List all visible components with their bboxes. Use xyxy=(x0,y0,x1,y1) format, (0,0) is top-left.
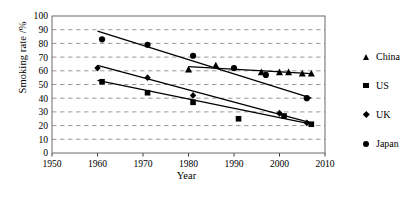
svg-text:50: 50 xyxy=(38,79,48,90)
svg-text:70: 70 xyxy=(38,52,48,63)
data-point xyxy=(99,79,105,85)
svg-text:60: 60 xyxy=(38,65,48,76)
data-point xyxy=(281,113,287,119)
svg-text:30: 30 xyxy=(38,106,48,117)
legend-label: Japan xyxy=(376,138,399,149)
diamond-icon xyxy=(360,112,372,117)
legend: China US UK Japan xyxy=(360,42,418,158)
data-point xyxy=(190,53,196,59)
legend-label: China xyxy=(376,51,400,62)
data-point xyxy=(212,62,219,69)
legend-item-japan: Japan xyxy=(360,129,418,158)
svg-text:100: 100 xyxy=(34,10,49,21)
svg-text:1970: 1970 xyxy=(133,158,152,169)
legend-label: UK xyxy=(376,109,390,120)
data-point xyxy=(190,100,196,106)
data-point xyxy=(144,42,150,48)
svg-text:80: 80 xyxy=(38,38,48,49)
data-point xyxy=(145,90,151,96)
legend-label: US xyxy=(376,80,389,91)
svg-text:2010: 2010 xyxy=(315,158,334,169)
x-tick-labels: 1950196019701980199020002010 xyxy=(42,158,334,169)
data-point xyxy=(236,116,242,122)
svg-text:1980: 1980 xyxy=(179,158,198,169)
data-point xyxy=(99,36,105,42)
svg-text:90: 90 xyxy=(38,24,48,35)
svg-text:2000: 2000 xyxy=(270,158,289,169)
y-tick-labels: 0102030405060708090100 xyxy=(34,10,49,158)
x-tick-marks xyxy=(52,153,325,157)
svg-text:1950: 1950 xyxy=(42,158,61,169)
data-markers xyxy=(94,36,315,127)
data-point xyxy=(304,95,310,101)
triangle-icon xyxy=(360,54,372,60)
svg-text:20: 20 xyxy=(38,120,48,131)
svg-text:0: 0 xyxy=(43,147,48,158)
gridlines xyxy=(52,30,325,140)
data-point xyxy=(231,65,237,71)
square-icon xyxy=(360,83,372,89)
svg-text:1990: 1990 xyxy=(224,158,243,169)
chart-figure: Smoking rate /% Year 0102030405060708090… xyxy=(0,0,420,197)
data-point xyxy=(263,72,269,78)
svg-text:1960: 1960 xyxy=(88,158,107,169)
plot-area: 0102030405060708090100 19501960197019801… xyxy=(0,0,420,197)
legend-item-us: US xyxy=(360,71,418,100)
circle-icon xyxy=(360,141,372,147)
svg-text:10: 10 xyxy=(38,134,48,145)
legend-item-uk: UK xyxy=(360,100,418,129)
legend-item-china: China xyxy=(360,42,418,71)
svg-text:40: 40 xyxy=(38,93,48,104)
